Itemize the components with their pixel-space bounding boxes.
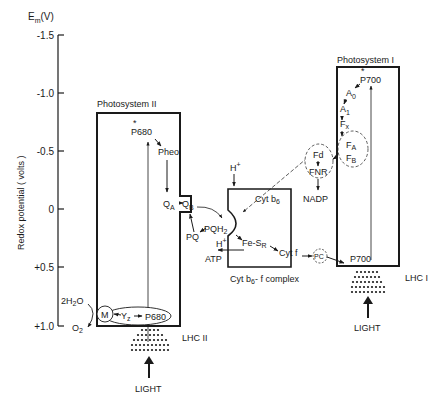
nadp: NADP: [303, 194, 328, 204]
manganese-m: M: [101, 310, 109, 320]
tick-label: -1.0: [37, 88, 55, 99]
z-scheme-diagram: Em(V) -1.5 -1.0 -0.5 0 +0.5 +1.0 Redox p…: [0, 0, 445, 399]
qb: QB: [182, 199, 194, 211]
cyt-b6: Cyt b6: [255, 194, 280, 205]
light-arrow-icon: [363, 296, 373, 318]
tick-label: -1.5: [37, 30, 55, 41]
y-axis-label: Redox potential ( volts ): [16, 155, 26, 250]
pheo: Pheo: [158, 147, 179, 157]
ferredoxin: Fd: [313, 150, 324, 160]
a1: A1: [340, 104, 350, 116]
complex-label: Cyt b6- f complex: [230, 274, 299, 285]
p680-ground: P680: [145, 312, 166, 322]
tick-label: +1.0: [34, 321, 54, 332]
cyt-f: Cyt f: [279, 248, 298, 258]
atp: ATP: [205, 254, 222, 264]
p680-excited: P680: [131, 127, 152, 137]
p700-excited: P700: [360, 75, 381, 85]
ps1-title: Photosystem I: [337, 55, 394, 65]
pqh2: PQH2: [204, 224, 228, 235]
cyt-b6f-complex: H+ PQH2 PQ H+ ATP Fe-SR Cyt f Cyt b6 Cyt…: [186, 154, 312, 285]
lhc1-label: LHC I: [405, 273, 428, 283]
pq: PQ: [186, 232, 199, 242]
water: 2H2O: [61, 296, 83, 307]
light-arrow-icon: [144, 356, 154, 378]
photosystem-i: Photosystem I * P700 A0 A1 Fx FA FB P700…: [333, 55, 428, 333]
light-label-ps1: LIGHT: [354, 323, 381, 333]
tick-label: 0: [48, 204, 54, 215]
fnr: FNR: [309, 167, 328, 177]
light-label-ps2: LIGHT: [135, 384, 162, 394]
a0: A0: [346, 88, 356, 100]
lhc2-label: LHC II: [182, 333, 208, 343]
tick-label: +0.5: [34, 262, 54, 273]
tick-label: -0.5: [37, 146, 55, 157]
fx: Fx: [340, 119, 350, 130]
ps2-title: Photosystem II: [97, 99, 157, 109]
y-axis: Em(V) -1.5 -1.0 -0.5 0 +0.5 +1.0 Redox p…: [16, 11, 64, 332]
lhc2-antenna-dots: [131, 329, 169, 351]
oxygen: O2: [72, 323, 83, 334]
proton-top: H+: [230, 161, 241, 173]
lhc1-antenna-dots: [351, 271, 385, 293]
axis-unit-label: Em(V): [28, 11, 54, 24]
proton-mid: H+: [216, 237, 227, 249]
fe-s-rieske: Fe-SR: [242, 238, 267, 249]
photosystem-ii: Photosystem II * P680 Pheo QA QB M Yz P6…: [61, 99, 208, 394]
qa: QA: [163, 199, 175, 211]
plastocyanin: PC: [314, 253, 324, 260]
p700-ground: P700: [350, 254, 371, 264]
